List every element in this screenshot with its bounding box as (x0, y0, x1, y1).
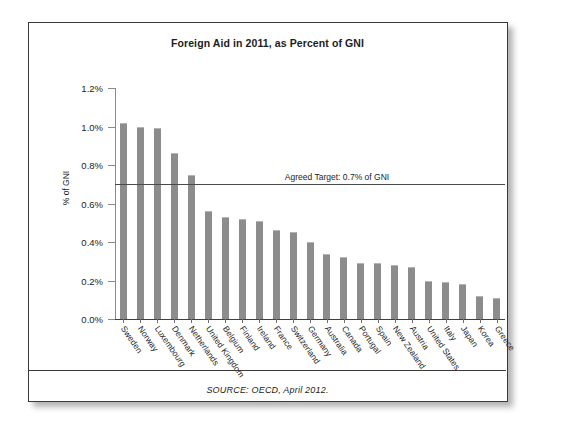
y-axis-tick-label: 0.8% (61, 160, 103, 171)
y-axis-title: % of GNI (61, 143, 71, 233)
x-axis-tick (361, 319, 362, 323)
bar (442, 282, 449, 319)
bar (256, 221, 263, 319)
bar (273, 230, 280, 319)
bar (323, 254, 330, 319)
bar (374, 263, 381, 319)
y-axis-tick-label: 0.0% (61, 314, 103, 325)
y-axis-tick (108, 165, 115, 166)
y-axis-tick (108, 281, 115, 282)
agreed-target-line (115, 184, 505, 185)
x-axis-tick (344, 319, 345, 323)
x-axis-tick (157, 319, 158, 323)
y-axis-tick (108, 204, 115, 205)
bar (476, 296, 483, 319)
x-axis-tick (191, 319, 192, 323)
x-axis-category-label: Greece (492, 324, 516, 353)
bar (154, 128, 161, 319)
bar (205, 211, 212, 319)
x-axis-tick (140, 319, 141, 323)
agreed-target-label: Agreed Target: 0.7% of GNI (285, 172, 389, 182)
bar (340, 257, 347, 319)
x-axis-tick (480, 319, 481, 323)
bar (290, 232, 297, 319)
footer-divider (29, 370, 506, 371)
x-axis-tick (123, 319, 124, 323)
chart-title: Foreign Aid in 2011, as Percent of GNI (29, 37, 506, 49)
y-axis-tick (108, 127, 115, 128)
chart-area: Foreign Aid in 2011, as Percent of GNI %… (29, 23, 506, 370)
bar (137, 127, 144, 320)
bar (425, 281, 432, 320)
bar (459, 284, 466, 319)
page-background: Foreign Aid in 2011, as Percent of GNI %… (0, 0, 563, 430)
y-axis-tick-label: 0.4% (61, 237, 103, 248)
x-axis-tick (412, 319, 413, 323)
x-axis-tick (497, 319, 498, 323)
x-axis-tick (429, 319, 430, 323)
x-axis-tick (446, 319, 447, 323)
bar (357, 263, 364, 319)
x-axis-tick (242, 319, 243, 323)
x-axis-tick (259, 319, 260, 323)
x-axis-tick (310, 319, 311, 323)
bar (408, 267, 415, 319)
y-axis-line (115, 88, 116, 319)
bar (188, 175, 195, 319)
y-axis-tick-label: 1.0% (61, 121, 103, 132)
x-axis-tick (463, 319, 464, 323)
x-axis-tick (327, 319, 328, 323)
x-axis-tick (378, 319, 379, 323)
bar (493, 298, 500, 319)
y-axis-tick-label: 0.6% (61, 198, 103, 209)
bar (171, 153, 178, 319)
source-note: SOURCE: OECD, April 2012. (29, 385, 506, 395)
bar (120, 123, 127, 319)
x-axis-tick (225, 319, 226, 323)
x-axis-tick (174, 319, 175, 323)
x-axis-tick (293, 319, 294, 323)
bar (307, 242, 314, 319)
y-axis-tick (108, 319, 115, 320)
bar (239, 219, 246, 319)
y-axis-tick (108, 242, 115, 243)
y-axis-tick-label: 0.2% (61, 275, 103, 286)
figure-card: Foreign Aid in 2011, as Percent of GNI %… (28, 22, 508, 402)
x-axis-tick (395, 319, 396, 323)
x-axis-tick (276, 319, 277, 323)
bar (222, 217, 229, 319)
y-axis-tick (108, 88, 115, 89)
bar (391, 265, 398, 319)
x-axis-tick (208, 319, 209, 323)
y-axis-tick-label: 1.2% (61, 83, 103, 94)
